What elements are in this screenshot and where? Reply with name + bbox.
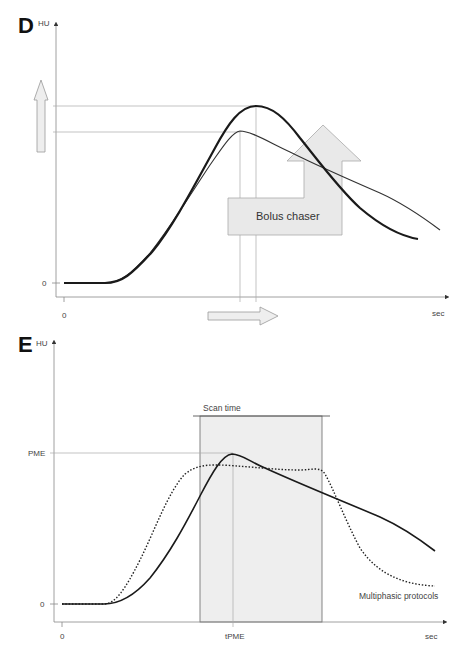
peak-delay-arrow-icon <box>208 307 278 325</box>
scan-time-window <box>200 416 322 622</box>
panel-e-y-zero-label: 0 <box>40 600 45 609</box>
panel-d-y-zero-label: 0 <box>42 279 47 288</box>
panel-e: E HU Scan time 0 0 sec PME tPME Multipha… <box>18 332 445 641</box>
panel-e-x-zero-label: 0 <box>60 632 65 641</box>
panel-e-letter: E <box>18 332 33 357</box>
panel-e-x-unit: sec <box>425 632 437 641</box>
pme-label: PME <box>28 449 45 458</box>
curve-with-bolus-chaser <box>64 106 418 283</box>
panel-d-letter: D <box>18 13 34 38</box>
bolus-chaser-label: Bolus chaser <box>256 210 320 222</box>
panel-e-y-unit: HU <box>36 339 48 348</box>
panel-d-x-unit: sec <box>432 309 444 318</box>
tpme-label: tPME <box>225 632 245 641</box>
panel-d-y-unit: HU <box>38 19 50 28</box>
enhancement-increase-arrow-icon <box>34 80 48 152</box>
scan-time-label: Scan time <box>203 403 241 413</box>
figure-canvas: D HU 0 0 sec Bolus chaser E HU Scan time <box>0 0 465 658</box>
panel-d-x-zero-label: 0 <box>62 311 67 320</box>
panel-d: D HU 0 0 sec Bolus chaser <box>18 13 447 325</box>
multiphasic-protocols-label: Multiphasic protocols <box>359 591 438 601</box>
